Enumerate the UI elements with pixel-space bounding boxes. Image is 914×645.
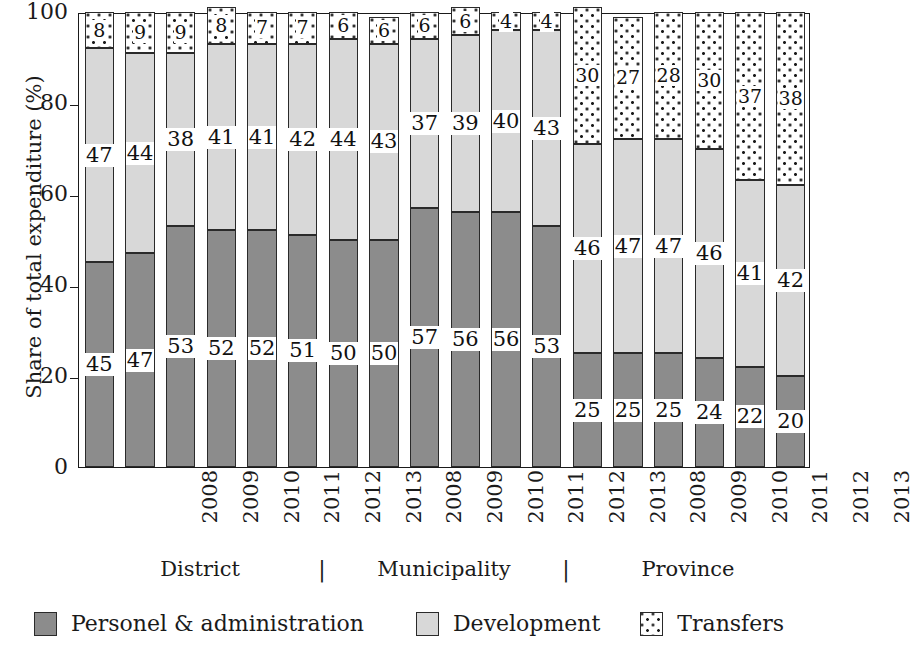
segment-transfers[interactable]: 9 (166, 12, 196, 53)
segment-personnel[interactable]: 25 (654, 353, 684, 467)
segment-transfers[interactable]: 8 (207, 7, 237, 43)
bar[interactable]: 50436 (369, 14, 399, 467)
segment-personnel[interactable]: 24 (695, 358, 725, 467)
bar[interactable]: 254727 (613, 14, 643, 467)
segment-personnel[interactable]: 47 (125, 253, 155, 467)
segment-personnel[interactable]: 56 (491, 212, 521, 467)
bar[interactable]: 53434 (532, 14, 562, 467)
y-tick-label: 60 (16, 183, 68, 205)
bar[interactable]: 57376 (410, 14, 440, 467)
x-tick-label: 2013 (647, 470, 669, 560)
segment-value-label: 20 (776, 410, 805, 433)
segment-personnel[interactable]: 25 (573, 353, 603, 467)
segment-transfers[interactable]: 6 (329, 12, 359, 39)
bar[interactable]: 56404 (491, 14, 521, 467)
segment-personnel[interactable]: 25 (613, 353, 643, 467)
segment-development[interactable]: 41 (735, 180, 765, 367)
segment-personnel[interactable]: 57 (410, 208, 440, 467)
x-tick-label: 2013 (403, 470, 425, 560)
segment-personnel[interactable]: 45 (85, 262, 115, 467)
segment-value-label: 27 (615, 67, 641, 88)
segment-development[interactable]: 46 (695, 149, 725, 358)
segment-transfers[interactable]: 7 (247, 12, 277, 44)
x-tick-label: 2010 (281, 470, 303, 560)
segment-development[interactable]: 42 (776, 185, 806, 376)
segment-transfers[interactable]: 7 (288, 12, 318, 44)
segment-transfers[interactable]: 37 (735, 12, 765, 180)
segment-transfers[interactable]: 9 (125, 12, 155, 53)
legend-swatch-transfers-icon (640, 612, 663, 636)
segment-personnel[interactable]: 53 (532, 226, 562, 467)
bar[interactable]: 224137 (735, 14, 765, 467)
segment-transfers[interactable]: 38 (776, 12, 806, 185)
bar[interactable]: 51427 (288, 14, 318, 467)
segment-value-label: 37 (410, 112, 439, 135)
x-tick-label: 2012 (362, 470, 384, 560)
segment-value-label: 41 (736, 262, 765, 285)
segment-personnel[interactable]: 50 (329, 240, 359, 468)
segment-development[interactable]: 43 (532, 30, 562, 226)
segment-value-label: 53 (166, 335, 195, 358)
legend-item-transfers[interactable]: Transfers (640, 611, 784, 637)
segment-transfers[interactable]: 30 (695, 12, 725, 149)
legend-swatch-personnel-icon (34, 612, 57, 636)
segment-value-label: 57 (410, 326, 439, 349)
segment-transfers[interactable]: 28 (654, 12, 684, 139)
segment-value-label: 30 (696, 70, 722, 91)
segment-personnel[interactable]: 52 (247, 230, 277, 467)
segment-personnel[interactable]: 50 (369, 240, 399, 468)
segment-transfers[interactable]: 6 (451, 7, 481, 34)
segment-value-label: 47 (614, 235, 643, 258)
segment-development[interactable]: 46 (573, 144, 603, 353)
segment-transfers[interactable]: 27 (613, 17, 643, 140)
segment-transfers[interactable]: 30 (573, 7, 603, 144)
bar[interactable]: 254630 (573, 14, 603, 467)
segment-development[interactable]: 44 (329, 39, 359, 239)
segment-transfers[interactable]: 6 (410, 12, 440, 39)
segment-transfers[interactable]: 4 (532, 12, 562, 30)
bar[interactable]: 52417 (247, 14, 277, 467)
bar[interactable]: 53389 (166, 14, 196, 467)
segment-personnel[interactable]: 22 (735, 367, 765, 467)
segment-development[interactable]: 41 (247, 44, 277, 231)
segment-development[interactable]: 40 (491, 30, 521, 212)
y-tick-label: 80 (16, 92, 68, 114)
segment-personnel[interactable]: 51 (288, 235, 318, 467)
segment-transfers[interactable]: 4 (491, 12, 521, 30)
bar[interactable]: 244630 (695, 14, 725, 467)
segment-development[interactable]: 38 (166, 53, 196, 226)
legend-item-development[interactable]: Development (416, 611, 600, 637)
segment-value-label: 43 (370, 130, 399, 153)
segment-development[interactable]: 43 (369, 44, 399, 240)
segment-development[interactable]: 47 (654, 139, 684, 353)
group-separator: | (562, 557, 569, 583)
legend-swatch-development-icon (416, 612, 439, 636)
segment-personnel[interactable]: 56 (451, 212, 481, 467)
segment-value-label: 7 (296, 17, 310, 38)
segment-development[interactable]: 42 (288, 44, 318, 235)
segment-personnel[interactable]: 53 (166, 226, 196, 467)
y-tick-label: 40 (16, 274, 68, 296)
segment-personnel[interactable]: 20 (776, 376, 806, 467)
segment-transfers[interactable]: 6 (369, 17, 399, 44)
group-separator: | (318, 557, 325, 583)
chart-legend: Personel & administrationDevelopmentTran… (0, 606, 818, 642)
segment-development[interactable]: 41 (207, 44, 237, 231)
segment-development[interactable]: 47 (613, 139, 643, 353)
segment-personnel[interactable]: 52 (207, 230, 237, 467)
segment-transfers[interactable]: 8 (85, 12, 115, 48)
bar[interactable]: 204238 (776, 14, 806, 467)
segment-development[interactable]: 37 (410, 39, 440, 207)
segment-development[interactable]: 39 (451, 35, 481, 212)
segment-value-label: 51 (288, 339, 317, 362)
bar[interactable]: 47449 (125, 14, 155, 467)
segment-development[interactable]: 47 (85, 48, 115, 262)
bar[interactable]: 56396 (451, 14, 481, 467)
segment-value-label: 24 (695, 401, 724, 424)
bar[interactable]: 45478 (85, 14, 115, 467)
bar[interactable]: 254728 (654, 14, 684, 467)
bar[interactable]: 52418 (207, 14, 237, 467)
bar[interactable]: 50446 (329, 14, 359, 467)
segment-development[interactable]: 44 (125, 53, 155, 253)
legend-item-personnel[interactable]: Personel & administration (34, 611, 364, 637)
